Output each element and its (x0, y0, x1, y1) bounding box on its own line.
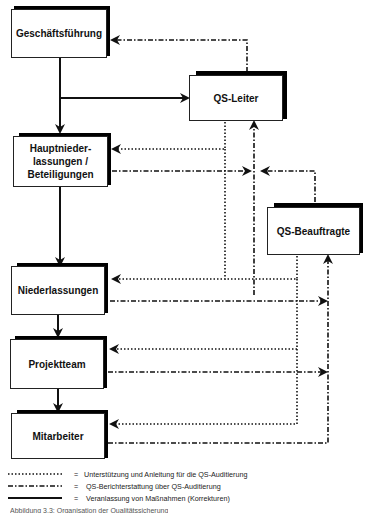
node-mitarbeiter[interactable]: Mitarbeiter (11, 413, 105, 459)
edge-qsb-to-cross (262, 171, 315, 202)
node-label-line-2: lassungen / (33, 155, 88, 168)
edge-qsb-to-pt (111, 279, 297, 349)
node-label: QS-Leiter (213, 92, 258, 105)
legend-text: Veranlassung von Maßnahmen (Korrekturen) (86, 494, 230, 503)
edge-qsleiter-to-nl (113, 149, 225, 279)
node-label: Projektteam (28, 358, 85, 371)
node-projektteam[interactable]: Projektteam (10, 339, 104, 389)
edge-ma-to-qsb (108, 256, 328, 443)
node-label: Niederlassungen (18, 284, 99, 297)
node-geschaeftsfuehrung[interactable]: Geschäftsführung (11, 9, 107, 58)
legend-equals: = (74, 470, 78, 479)
node-hauptniederlassungen[interactable]: Hauptnieder- lassungen / Beteiligungen (13, 136, 108, 187)
node-qs-beauftragte[interactable]: QS-Beauftragte (267, 207, 360, 255)
legend-text: QS-Berichterstattung über QS-Auditierung (86, 482, 221, 491)
qsleiter-box-shadow-right (283, 71, 287, 119)
node-niederlassungen[interactable]: Niederlassungen (11, 266, 105, 315)
node-label: QS-Beauftragte (277, 225, 350, 238)
edge-qsleiter-to-hn (113, 122, 225, 149)
legend-text: Unterstützung und Anleitung für die QS-A… (84, 470, 247, 479)
edge-qsb-to-nl (225, 256, 297, 279)
legend-item-dashdot: = QS-Berichterstattung über QS-Auditieru… (0, 480, 371, 492)
legend-equals: = (74, 494, 78, 503)
node-label: Geschäftsführung (16, 27, 102, 40)
legend-item-solid: = Veranlassung von Maßnahmen (Korrekture… (0, 492, 371, 504)
edge-qsleiter-to-gf (112, 40, 247, 72)
node-label: Mitarbeiter (32, 430, 83, 443)
dotted-edges (111, 122, 297, 424)
node-qs-leiter[interactable]: QS-Leiter (189, 75, 283, 121)
node-label-line-1: Hauptnieder- (30, 142, 92, 155)
node-label-line-3: Beteiligungen (27, 168, 93, 181)
legend-item-dotted: = Unterstützung und Anleitung für die QS… (0, 468, 371, 480)
edge-qsb-to-ma (111, 349, 297, 424)
legend-equals: = (74, 482, 78, 491)
figure-caption: Abbildung 3.3: Organisation der Qualität… (10, 507, 168, 513)
